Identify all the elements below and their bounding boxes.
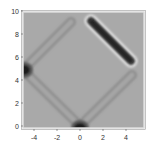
x-tick-label: 4	[124, 134, 128, 141]
y-tick-label: 4	[15, 77, 19, 84]
y-tick-label: 8	[15, 31, 19, 38]
x-tick-label: 0	[78, 134, 82, 141]
y-tick-label: 10	[11, 8, 19, 15]
plot-area	[23, 12, 144, 128]
y-tick-label: 0	[15, 123, 19, 130]
x-tick-label: -2	[54, 134, 60, 141]
x-tick-label: 2	[101, 134, 105, 141]
x-tick-label: -4	[31, 134, 37, 141]
x-axis: -4 -2 0 2 4	[31, 129, 128, 141]
y-tick-label: 6	[15, 54, 19, 61]
density-plot: 0 2 4 6 8 10 -4 -2 0 2 4	[0, 0, 151, 145]
y-tick-label: 2	[15, 100, 19, 107]
